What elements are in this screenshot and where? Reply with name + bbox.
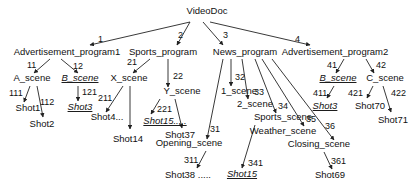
edge-ap2-bs2 <box>336 59 344 73</box>
edge-as-sh1 <box>24 86 30 102</box>
edge-root-ap1 <box>90 22 190 45</box>
edge-label: 1 <box>98 34 103 44</box>
node-sh70: Shot70 <box>355 100 385 111</box>
node-ys: Y_scene <box>164 85 201 96</box>
edge-label: 11 <box>27 60 36 70</box>
edge-label: 221 <box>157 104 172 114</box>
node-sh2: Shot2 <box>30 118 55 129</box>
node-sh37: Shot37 <box>165 129 195 140</box>
node-cs2: C_scene <box>366 72 404 83</box>
edge-label: 32 <box>235 72 245 82</box>
edge-label: 31 <box>210 124 220 134</box>
node-xs: X_scene <box>111 72 148 83</box>
edge-label: 41 <box>327 60 337 70</box>
edge-label: 111 <box>9 88 23 98</box>
edge-label: 411 <box>313 88 327 98</box>
edge-label: 311 <box>184 155 198 165</box>
node-ap1: Advertisement_program1 <box>14 46 121 57</box>
edge-ap1-as <box>34 59 50 73</box>
node-sh1: Shot1 <box>16 102 41 113</box>
edge-label: 211 <box>98 93 112 103</box>
node-sh15a: Shot15..... <box>143 115 186 126</box>
edge-bs2-sh3b <box>327 86 334 98</box>
node-sps: Sports_scene <box>254 111 312 122</box>
node-s1: 1_scene <box>221 85 257 96</box>
edge-cs2-sh70 <box>367 86 373 98</box>
node-sp: Sports_program <box>129 46 197 57</box>
node-sh38: Shot38 ..... <box>165 169 211 180</box>
node-np: News_program <box>213 46 277 57</box>
edge-label: 36 <box>325 121 335 131</box>
edge-label: 22 <box>173 71 183 81</box>
edge-label: 12 <box>73 61 83 71</box>
node-sh3b: Shot3 <box>313 100 339 111</box>
node-sh71: Shot71 <box>378 114 408 125</box>
node-sh4: Shot4... <box>91 111 124 122</box>
node-videodoc: VideoDoc <box>186 5 227 16</box>
edge-label: 4 <box>295 34 300 44</box>
edge-label: 2 <box>178 30 183 40</box>
edge-label: 361 <box>331 156 346 166</box>
edge-label: 21 <box>127 57 137 67</box>
edge-label: 112 <box>40 97 54 107</box>
node-cs: Closing_scene <box>288 138 350 149</box>
node-sh14: Shot14 <box>113 133 143 144</box>
node-ws: Weather_scene <box>250 125 316 136</box>
node-bs1: B_scene <box>62 72 99 83</box>
edge-ap2-cs2 <box>366 59 374 73</box>
edge-label: 421 <box>348 88 363 98</box>
node-s2: 2_scene <box>237 98 273 109</box>
node-bs2: B_scene <box>320 72 357 83</box>
edge-label: 341 <box>248 158 263 168</box>
edge-label: 42 <box>376 60 386 70</box>
tree-diagram: 1234111221223132333435364142111112121211… <box>0 0 415 188</box>
edge-label: 3 <box>223 30 228 40</box>
edge-root-np <box>203 22 223 45</box>
node-sh15b: Shot15 <box>227 168 258 179</box>
node-ap2: Advertisement_program2 <box>282 46 389 57</box>
edge-label: 121 <box>82 87 97 97</box>
edge-label: 34 <box>278 101 288 111</box>
edge-label: 422 <box>391 88 406 98</box>
node-sh69: Shot69 <box>315 169 345 180</box>
node-sh3a: Shot3 <box>68 101 94 112</box>
node-as: A_scene <box>14 72 51 83</box>
